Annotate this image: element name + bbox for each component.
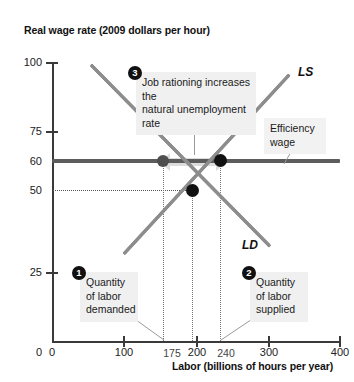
reference-line-wage-50 bbox=[53, 190, 192, 191]
labor-supply-curve-label: LS bbox=[298, 65, 313, 79]
callout-3-line-2: natural unemployment rate bbox=[142, 103, 250, 130]
x-tick-label-300: 300 bbox=[249, 346, 289, 358]
y-tick-label-75: 75 bbox=[8, 125, 42, 137]
y-tick-label-25: 25 bbox=[8, 266, 42, 278]
y-tick-label-60: 60 bbox=[8, 155, 42, 167]
x-tick-label-240: 240 bbox=[206, 347, 246, 359]
callout-3-badge: 3 bbox=[128, 66, 142, 80]
callout-1-line-2: of labor bbox=[86, 290, 132, 304]
quantity-supplied-point bbox=[214, 154, 227, 167]
y-tick-mark-25 bbox=[46, 272, 58, 274]
callout-2-badge: 2 bbox=[242, 266, 256, 280]
efficiency-wage-line-2: wage bbox=[270, 136, 320, 150]
y-tick-label-50: 50 bbox=[8, 184, 42, 196]
callout-1-box: Quantity of labor demanded bbox=[80, 272, 138, 322]
x-tick-label-400: 400 bbox=[320, 346, 354, 358]
callout-1-badge: 1 bbox=[72, 266, 86, 280]
reference-line-labor-200 bbox=[192, 190, 193, 341]
callout-2-line-1: Quantity bbox=[256, 276, 302, 290]
callout-1-line-3: demanded bbox=[86, 303, 132, 317]
callout-1-line-1: Quantity bbox=[86, 276, 132, 290]
efficiency-wage-line-1: Efficiency bbox=[270, 122, 320, 136]
x-tick-label-100: 100 bbox=[104, 346, 144, 358]
y-tick-mark-100 bbox=[46, 62, 58, 64]
quantity-demanded-point bbox=[157, 155, 169, 167]
labor-demand-curve-label: LD bbox=[242, 238, 258, 252]
efficiency-wage-box: Efficiency wage bbox=[264, 118, 326, 154]
y-tick-label-100: 100 bbox=[8, 56, 42, 68]
callout-2-line-3: supplied bbox=[256, 303, 302, 317]
equilibrium-point bbox=[186, 184, 199, 197]
callout-3-box: Job rationing increases the natural unem… bbox=[136, 72, 256, 135]
callout-2-box: Quantity of labor supplied bbox=[250, 272, 308, 322]
y-axis-title: Real wage rate (2009 dollars per hour) bbox=[24, 24, 210, 36]
y-axis-line bbox=[52, 62, 54, 342]
x-tick-label-0: 0 bbox=[32, 346, 72, 358]
x-axis-title: Labor (billions of hours per year) bbox=[172, 360, 333, 372]
callout-2-line-2: of labor bbox=[256, 290, 302, 304]
y-tick-mark-75 bbox=[46, 131, 58, 133]
callout-3-line-1: Job rationing increases the bbox=[142, 76, 250, 103]
